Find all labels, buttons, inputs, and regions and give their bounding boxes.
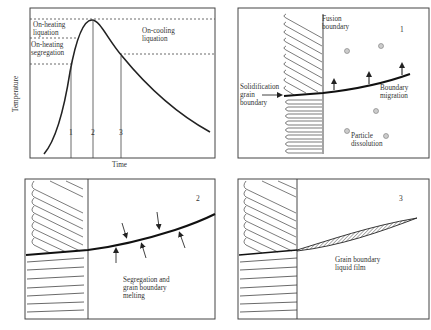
particle-dissolution-label: Particle dissolution: [351, 132, 383, 148]
particle-icon: [345, 49, 350, 54]
liquid-film-label: Grain boundary liquid film: [335, 256, 380, 272]
segregation-arrow: [142, 245, 146, 258]
segregation-arrow: [122, 223, 126, 236]
on-heating-liquation-label: On-heating liquation: [33, 21, 65, 37]
lower-grains: [286, 100, 323, 153]
panel-segregation-melting: [25, 179, 215, 319]
segregation-arrow: [180, 234, 185, 248]
on-heating-segregation-label: On-heating segregation: [31, 41, 64, 57]
on-cooling-liquation-label: On-cooling liquation: [142, 27, 175, 43]
marker-label-2: 2: [91, 128, 95, 137]
diagram-canvas: [0, 0, 431, 330]
particle-icon: [345, 129, 350, 134]
segregation-melting-label: Segregation and grain boundary melting: [123, 276, 170, 300]
grain-boundary-line: [26, 214, 215, 255]
liquid-film-shape: [297, 218, 417, 251]
particle-icon: [384, 134, 389, 139]
panel-3-number: 2: [196, 194, 200, 203]
particle-icon: [379, 44, 384, 49]
lower-grains: [240, 258, 297, 312]
grain-boundary-line: [239, 250, 297, 255]
panel-4-number: 3: [399, 194, 403, 203]
upper-grains: [32, 181, 83, 253]
upper-grains: [284, 14, 322, 95]
y-axis-label: Temperature: [12, 76, 20, 112]
solidification-grain-boundary-label: Solidification grain boundary: [240, 83, 279, 107]
fusion-boundary-label: Fusion boundary: [322, 15, 349, 31]
panel-2-number: 1: [400, 25, 404, 34]
marker-label-3: 3: [119, 128, 123, 137]
x-axis-label: Time: [112, 161, 127, 169]
upper-grains: [244, 181, 296, 253]
marker-label-1: 1: [69, 128, 73, 137]
lower-grains: [27, 258, 84, 312]
segregation-arrow: [157, 212, 159, 227]
boundary-migration-label: Boundary migration: [380, 84, 408, 100]
panel-3-frame: [25, 179, 215, 319]
particle-icon: [374, 109, 379, 114]
